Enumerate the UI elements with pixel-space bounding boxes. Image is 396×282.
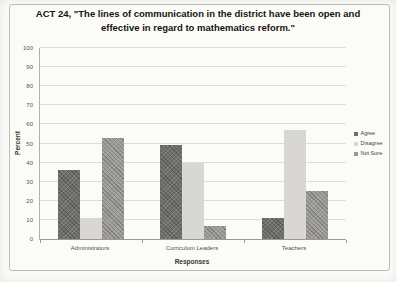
y-tick-label: 100 — [23, 45, 33, 51]
x-axis-tickmark — [40, 240, 41, 243]
bar-group-teachers — [262, 48, 328, 239]
scanned-page: ACT 24, "The lines of communication in t… — [0, 0, 396, 282]
legend-label-agree: Agree — [361, 131, 376, 137]
y-axis-ticks: 0102030405060708090100 — [0, 48, 36, 239]
y-tick-label: 40 — [26, 160, 33, 166]
legend-label-disagree: Disagree — [361, 141, 383, 147]
x-axis-tickmark — [244, 240, 245, 243]
bar-group-administrators — [58, 48, 124, 239]
legend-marker-agree — [354, 132, 358, 136]
x-axis-tickmark — [142, 240, 143, 243]
x-category-label-curriculum-leaders: Curriculum Leaders — [141, 245, 243, 251]
legend-marker-disagree — [354, 142, 358, 146]
y-tick-label: 50 — [26, 141, 33, 147]
x-category-labels: AdministratorsCurriculum LeadersTeachers — [39, 245, 345, 251]
y-tick-label: 0 — [30, 236, 33, 242]
bar-not-sure-administrators — [102, 138, 124, 239]
x-axis-label: Responses — [39, 258, 345, 265]
y-tick-label: 70 — [26, 102, 33, 108]
bar-disagree-teachers — [284, 130, 306, 239]
x-category-label-teachers: Teachers — [243, 245, 345, 251]
x-category-label-administrators: Administrators — [39, 245, 141, 251]
bar-disagree-curriculum-leaders — [182, 163, 204, 239]
y-tick-label: 10 — [26, 217, 33, 223]
bar-group-curriculum-leaders — [160, 48, 226, 239]
chart-title: ACT 24, "The lines of communication in t… — [31, 7, 365, 35]
y-tick-label: 90 — [26, 64, 33, 70]
bar-agree-curriculum-leaders — [160, 145, 182, 239]
y-tick-label: 60 — [26, 121, 33, 127]
legend-label-not-sure: Not Sure — [361, 151, 383, 157]
legend-item-not-sure: Not Sure — [354, 151, 383, 157]
plot-area — [39, 48, 346, 240]
bar-agree-teachers — [262, 218, 284, 239]
legend-marker-not-sure — [354, 152, 358, 156]
legend-item-agree: Agree — [354, 131, 383, 137]
bar-agree-administrators — [58, 170, 80, 239]
bar-not-sure-curriculum-leaders — [204, 226, 226, 239]
y-tick-label: 30 — [26, 179, 33, 185]
y-tick-label: 20 — [26, 198, 33, 204]
bar-not-sure-teachers — [306, 191, 328, 239]
y-tick-label: 80 — [26, 83, 33, 89]
legend-item-disagree: Disagree — [354, 141, 383, 147]
bar-disagree-administrators — [80, 218, 102, 239]
x-axis-tickmark — [346, 240, 347, 243]
legend: AgreeDisagreeNot Sure — [354, 131, 383, 157]
